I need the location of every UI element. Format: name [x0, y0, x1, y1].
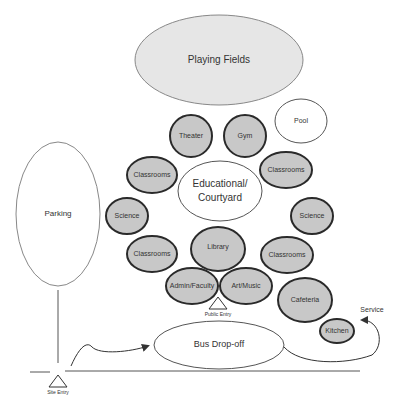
courtyard-bubble: Educational/ Courtyard: [178, 161, 262, 221]
svg-text:Courtyard: Courtyard: [198, 192, 242, 203]
svg-text:Pool: Pool: [294, 117, 308, 124]
svg-text:Site Entry: Site Entry: [47, 389, 69, 395]
svg-text:Gym: Gym: [238, 132, 253, 140]
svg-text:Cafeteria: Cafeteria: [291, 296, 320, 303]
svg-text:Classrooms: Classrooms: [134, 250, 171, 257]
svg-text:Parking: Parking: [44, 209, 71, 218]
classrooms-sw-bubble: Classrooms: [127, 236, 177, 272]
classrooms-ne-bubble: Classrooms: [260, 152, 312, 188]
classrooms-nw-bubble: Classrooms: [127, 157, 177, 193]
svg-text:Science: Science: [115, 212, 140, 219]
svg-text:Classrooms: Classrooms: [134, 171, 171, 178]
svg-text:Classrooms: Classrooms: [268, 166, 305, 173]
svg-text:Bus Drop-off: Bus Drop-off: [194, 339, 245, 349]
library-bubble: Library: [191, 227, 245, 271]
svg-text:Classrooms: Classrooms: [269, 251, 306, 258]
svg-text:Theater: Theater: [179, 132, 204, 139]
science-e-bubble: Science: [291, 198, 333, 234]
svg-text:Kitchen: Kitchen: [325, 327, 348, 334]
classrooms-se-bubble: Classrooms: [261, 237, 313, 273]
svg-text:Public Entry: Public Entry: [205, 311, 232, 317]
cafeteria-bubble: Cafeteria: [278, 278, 332, 322]
pool-bubble: Pool: [275, 99, 327, 143]
parking-bubble: Parking: [16, 142, 100, 286]
svg-text:Playing Fields: Playing Fields: [188, 54, 250, 65]
playing-fields-bubble: Playing Fields: [135, 15, 303, 105]
admin-faculty-bubble: Admin/Faculty: [166, 268, 218, 304]
triangle-icon: [49, 375, 67, 387]
bubble-diagram: Playing Fields Pool Theater Gym Classroo…: [0, 0, 397, 407]
theater-bubble: Theater: [170, 115, 212, 157]
gym-bubble: Gym: [224, 115, 266, 157]
svg-text:Art/Music: Art/Music: [231, 282, 261, 289]
svg-text:Admin/Faculty: Admin/Faculty: [170, 282, 215, 290]
science-w-bubble: Science: [106, 198, 148, 234]
arrow-to-bus: [71, 345, 148, 366]
art-music-bubble: Art/Music: [220, 268, 272, 304]
site-entry-marker: Site Entry: [47, 375, 69, 395]
svg-text:Library: Library: [207, 243, 229, 251]
kitchen-bubble: Kitchen: [320, 319, 354, 343]
bus-dropoff-bubble: Bus Drop-off: [154, 321, 284, 369]
svg-text:Educational/: Educational/: [192, 178, 247, 189]
service-label: Service: [360, 306, 383, 313]
svg-text:Science: Science: [300, 212, 325, 219]
